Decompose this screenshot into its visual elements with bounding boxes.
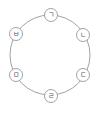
node-label: ㄱ [48,11,54,19]
cycle-ring [10,15,90,95]
node-mieum: ㅁ [10,69,23,82]
node-rieul: ㄹ [45,90,58,103]
node-label: ㄹ [48,92,54,100]
node-label: ㄴ [80,31,86,39]
node-label: ㅁ [13,71,19,79]
node-bieup: ㅂ [10,28,23,41]
node-label: ㄷ [80,71,86,79]
consonant-cycle-diagram: ㄱ ㄴ ㄷ ㄹ ㅁ ㅂ [0,0,102,113]
node-giyeok: ㄱ [45,9,58,22]
node-nieun: ㄴ [77,29,90,42]
node-label: ㅂ [13,30,19,38]
node-digeut: ㄷ [77,69,90,82]
